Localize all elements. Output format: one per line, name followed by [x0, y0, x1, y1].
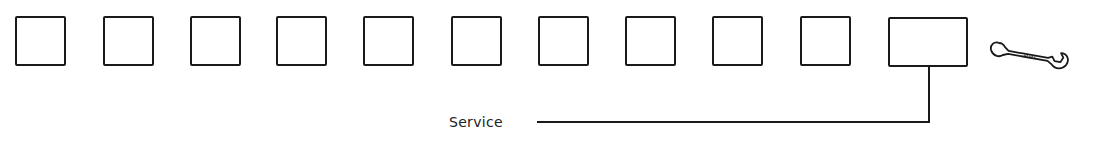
service-label: Service [449, 114, 503, 130]
connector-lines [0, 0, 1115, 144]
callout-line [537, 65, 929, 122]
wrench-icon [989, 41, 1069, 70]
